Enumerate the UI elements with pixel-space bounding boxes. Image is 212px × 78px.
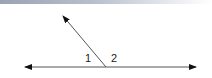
angle-label-1: 1 xyxy=(85,53,91,64)
angle-diagram: 1 2 xyxy=(0,0,212,78)
angle-label-2: 2 xyxy=(111,53,117,64)
linear-pair-figure xyxy=(0,0,212,78)
